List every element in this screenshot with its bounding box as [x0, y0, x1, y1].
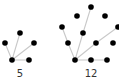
- graph-small-nodes: [2, 30, 37, 63]
- graph-node-bottom-right: [26, 57, 32, 63]
- graph-edge: [12, 43, 34, 60]
- graph-edge: [75, 43, 96, 60]
- graph-node-lower-left: [65, 40, 71, 46]
- graph-node-right: [31, 40, 37, 46]
- graph-large-label: 12: [85, 69, 98, 79]
- graph-node-top: [17, 30, 23, 36]
- graph-node-mid-left: [80, 30, 86, 36]
- graph-node-hub: [72, 57, 78, 63]
- graph-node-upper-right: [102, 13, 108, 19]
- graph-node-far-right: [110, 40, 116, 46]
- graph-edge: [96, 27, 118, 43]
- graph-edge: [83, 7, 91, 33]
- graph-edge: [12, 33, 20, 60]
- graph-large-edges: [62, 7, 118, 60]
- graph-large-tree: [59, 4, 119, 63]
- graph-small-edges: [5, 33, 34, 60]
- graph-node-bottom-right: [104, 57, 110, 63]
- graph-node-bottom-mid: [88, 57, 94, 63]
- graph-node-left: [2, 40, 8, 46]
- graph-node-center-right: [93, 40, 99, 46]
- graph-edge: [75, 33, 83, 60]
- graph-small-label: 5: [17, 69, 23, 79]
- graph-node-far-left: [59, 24, 65, 30]
- graph-small-tree: [2, 30, 37, 63]
- graph-node-top: [88, 4, 94, 10]
- graph-node-upper-left: [74, 13, 80, 19]
- graph-node-hub: [9, 57, 15, 63]
